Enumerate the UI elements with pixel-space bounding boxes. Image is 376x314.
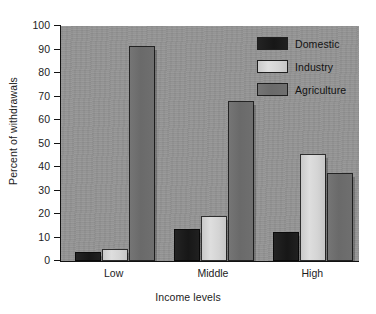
y-axis-tick: 40 (54, 166, 61, 167)
legend-item-industry[interactable]: Industry (257, 57, 346, 76)
legend-swatch-agriculture (257, 83, 288, 96)
legend-item-agriculture[interactable]: Agriculture (257, 80, 346, 99)
legend-swatch-domestic (257, 37, 288, 50)
bar-high-industry (300, 154, 326, 261)
y-axis-tick-label: 40 (38, 160, 50, 173)
y-axis-tick: 80 (54, 72, 61, 73)
y-axis-tick-label: 100 (32, 19, 50, 32)
x-axis-group-label-high: High (302, 267, 324, 279)
bar-low-agriculture (129, 46, 155, 261)
legend-label-domestic: Domestic (295, 38, 340, 50)
bar-middle-industry (201, 216, 227, 261)
y-axis-tick-label: 70 (38, 90, 50, 103)
bar-middle-domestic (174, 229, 200, 261)
chart-legend: DomesticIndustryAgriculture (257, 34, 346, 103)
y-axis-tick-label: 80 (38, 66, 50, 79)
legend-label-agriculture: Agriculture (295, 84, 346, 96)
y-axis-tick: 50 (54, 143, 61, 144)
y-axis-tick: 0 (54, 260, 61, 261)
y-axis-tick-label: 10 (38, 231, 50, 244)
y-axis-tick: 70 (54, 96, 61, 97)
bar-chart-figure: Percent of withdrawals 01020304050607080… (0, 0, 376, 314)
x-axis-group-label-low: Low (104, 267, 123, 279)
y-axis-tick: 60 (54, 119, 61, 120)
y-axis-tick: 30 (54, 190, 61, 191)
y-axis-tick: 100 (54, 25, 61, 26)
y-axis-tick-label: 20 (38, 207, 50, 220)
bar-low-domestic (75, 252, 101, 261)
y-axis-tick-label: 60 (38, 113, 50, 126)
legend-item-domestic[interactable]: Domestic (257, 34, 346, 53)
x-axis-title: Income levels (0, 291, 376, 303)
y-axis-title-text: Percent of withdrawals (7, 77, 19, 185)
legend-swatch-industry (257, 60, 288, 73)
bar-high-domestic (273, 232, 299, 261)
y-axis-tick: 10 (54, 237, 61, 238)
y-axis-title: Percent of withdrawals (2, 0, 24, 261)
y-axis-tick: 90 (54, 49, 61, 50)
y-axis-tick: 20 (54, 213, 61, 214)
y-axis-tick-label: 30 (38, 184, 50, 197)
bar-low-industry (102, 249, 128, 261)
y-axis-tick-label: 50 (38, 137, 50, 150)
y-axis-tick-label: 90 (38, 43, 50, 56)
x-axis-group-label-middle: Middle (198, 267, 229, 279)
legend-label-industry: Industry (295, 61, 333, 73)
bar-middle-agriculture (228, 101, 254, 261)
bar-high-agriculture (327, 173, 353, 261)
x-axis-title-text: Income levels (155, 291, 221, 303)
y-axis-tick-label: 0 (44, 254, 50, 267)
